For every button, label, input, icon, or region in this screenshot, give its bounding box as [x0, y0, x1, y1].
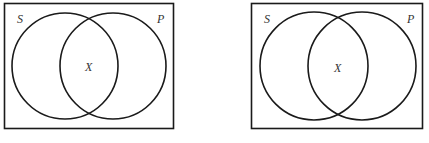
circle-s: [260, 12, 368, 120]
label-p: P: [156, 12, 165, 26]
circle-p: [308, 12, 416, 120]
label-s: S: [264, 12, 270, 26]
venn-diagram-right: S P X: [252, 4, 423, 129]
venn-diagram-left: S P X: [5, 4, 174, 129]
label-x: X: [84, 60, 93, 74]
circle-p: [60, 13, 166, 119]
label-p: P: [406, 12, 415, 26]
label-x: X: [333, 61, 342, 75]
circle-s: [12, 13, 118, 119]
label-s: S: [17, 12, 23, 26]
venn-diagrams-canvas: S P X S P X: [0, 0, 429, 143]
